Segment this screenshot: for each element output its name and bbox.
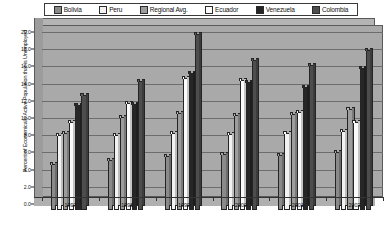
x-axis-tick-mark [326,197,327,201]
y-axis-tick-label: 14.0 [21,81,31,87]
bar-top-face [119,115,122,118]
bar-ecuador-1999 [183,78,188,211]
bar-venezuela-1999 [189,73,194,210]
bar-colombia-2000 [252,60,257,210]
bar-top-face [283,131,286,134]
bar-top-face [359,66,362,69]
bar-venezuela-2000 [246,82,251,211]
bar-top-face [107,158,110,161]
bar-series-container [34,18,383,202]
bar-regional-avg-1999 [177,113,182,211]
legend-item-ecuador[interactable]: Ecuador [205,6,238,14]
legend-item-label: Venezuela [266,6,295,13]
bar-top-face [334,150,337,153]
bar-side-face [199,32,202,207]
legend-item-peru[interactable]: Peru [99,6,122,14]
x-axis-tick-mark [213,197,214,201]
chart-legend: BoliviaPeruRegional Avg.EcuadorVenezuela… [44,3,358,16]
bar-venezuela-2002 [360,68,365,210]
y-axis-tick-label: 6.0 [24,149,31,155]
x-axis-tick-mark [42,197,43,201]
x-axis-tick-label: 2001 [292,202,304,208]
bar-ecuador-2000 [240,80,245,210]
bar-top-face [365,48,368,51]
bar-top-face [352,120,355,123]
legend-swatch-icon [140,6,148,14]
bar-top-face [296,110,299,113]
x-axis-tick-label: 1999 [178,202,190,208]
bar-top-face [227,132,230,135]
bar-top-face [74,103,77,106]
unemployment-bar-chart: BoliviaPeruRegional Avg.EcuadorVenezuela… [0,0,387,225]
y-axis-ticks: 0.02.04.06.08.010.012.014.016.018.020.0 [12,14,34,204]
x-axis-tick-label: 1997 [64,202,76,208]
y-axis-tick-label: 4.0 [24,167,31,173]
bar-top-face [125,101,128,104]
legend-swatch-icon [99,6,107,14]
legend-swatch-icon [312,6,320,14]
x-axis: 199719981999200020012002 [34,197,383,217]
bar-side-face [313,63,316,207]
bar-top-face [113,133,116,136]
bar-top-face [239,78,242,81]
bar-side-face [86,93,89,207]
x-axis-tick-mark [156,197,157,201]
x-axis-tick-label: 2000 [235,202,247,208]
bar-top-face [277,153,280,156]
bar-top-face [290,112,293,115]
legend-swatch-icon [256,6,264,14]
legend-item-colombia[interactable]: Colombia [312,6,348,14]
bar-ecuador-2001 [297,112,302,210]
legend-item-label: Bolivia [64,6,82,13]
bar-top-face [188,71,191,74]
bar-side-face [256,58,259,206]
y-axis-tick-label: 16.0 [21,63,31,69]
bar-top-face [245,80,248,83]
bar-side-face [142,79,145,206]
bar-top-face [68,120,71,123]
bar-colombia-2001 [309,65,314,211]
legend-item-label: Ecuador [215,6,238,13]
bar-venezuela-1998 [132,104,137,210]
bar-top-face [346,107,349,110]
bar-top-face [251,58,254,61]
legend-swatch-icon [205,6,213,14]
bar-colombia-1997 [81,95,86,211]
bar-top-face [80,93,83,96]
x-axis-tick-label: 1998 [121,202,133,208]
bar-top-face [137,79,140,82]
bar-top-face [62,131,65,134]
legend-item-label: Colombia [322,6,348,13]
legend-swatch-icon [54,6,62,14]
bar-venezuela-1997 [75,105,80,210]
bar-colombia-2002 [366,50,371,210]
y-axis-tick-label: 18.0 [21,46,31,52]
bar-colombia-1998 [138,81,143,210]
y-axis-tick-label: 10.0 [21,115,31,121]
bar-top-face [50,162,53,165]
legend-item-venezuela[interactable]: Venezuela [256,6,295,14]
x-axis-line [34,197,383,198]
bar-top-face [233,113,236,116]
y-axis-tick-label: 2.0 [24,184,31,190]
bar-regional-avg-2001 [291,114,296,211]
bar-colombia-1999 [195,34,200,211]
y-axis-tick-label: 12.0 [21,98,31,104]
bar-ecuador-1998 [126,103,131,210]
bar-top-face [56,133,59,136]
legend-item-bolivia[interactable]: Bolivia [54,6,82,14]
bar-side-face [370,48,373,206]
legend-item-label: Peru [109,6,122,13]
y-axis-tick-label: 20.0 [21,29,31,35]
bar-top-face [182,76,185,79]
bar-top-face [176,111,179,114]
x-axis-tick-mark [269,197,270,201]
y-axis-tick-label: 8.0 [24,132,31,138]
y-axis-tick-label: 0.0 [24,201,31,207]
bar-top-face [170,131,173,134]
legend-item-regional-avg[interactable]: Regional Avg. [140,6,188,14]
legend-item-label: Regional Avg. [150,6,188,13]
bar-top-face [302,85,305,88]
bar-top-face [340,129,343,132]
x-axis-tick-label: 2002 [349,202,361,208]
